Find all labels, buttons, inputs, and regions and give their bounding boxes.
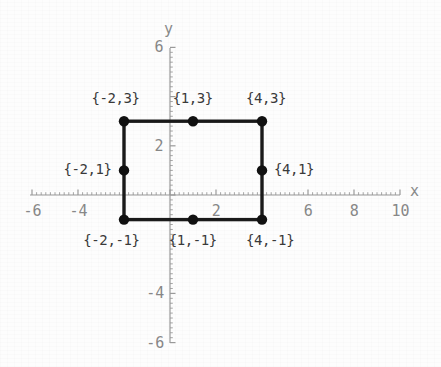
x-axis-label: x [410, 182, 419, 200]
data-rectangle [124, 121, 262, 219]
data-point [188, 214, 198, 224]
point-coordinate-label: {4,1} [274, 161, 314, 177]
x-tick-label: 10 [392, 202, 410, 220]
point-coordinate-label: {-2,3} [91, 90, 139, 106]
point-coordinate-label: {-2,1} [63, 161, 111, 177]
data-point [257, 165, 267, 175]
point-coordinate-label: {4,3} [246, 90, 286, 106]
data-point [257, 214, 267, 224]
y-tick-label: 6 [155, 38, 164, 56]
x-tick-label: 8 [350, 202, 359, 220]
point-coordinate-label: {-2,-1} [83, 232, 139, 248]
y-tick-label: 2 [155, 137, 164, 155]
y-tick-label: -6 [146, 334, 164, 352]
data-point [257, 116, 267, 126]
plot-canvas [0, 0, 441, 367]
point-coordinate-label: {4,-1} [246, 232, 294, 248]
x-tick-label: -6 [24, 202, 42, 220]
point-coordinate-label: {1,-1} [169, 232, 217, 248]
y-axis-label: y [164, 20, 173, 38]
x-tick-label: 6 [304, 202, 313, 220]
data-point [188, 116, 198, 126]
coordinate-plot: -6-42681062-4-6 {-2,3}{1,3}{4,3}{-2,1}{4… [0, 0, 441, 367]
data-point [119, 165, 129, 175]
data-point [119, 214, 129, 224]
point-coordinate-label: {1,3} [173, 90, 213, 106]
x-tick-label: -4 [70, 202, 88, 220]
y-tick-label: -4 [146, 284, 164, 302]
data-point [119, 116, 129, 126]
x-tick-label: 2 [212, 202, 221, 220]
